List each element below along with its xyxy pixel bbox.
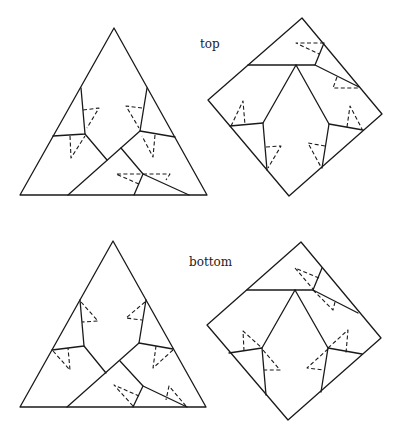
triangle-outline (20, 28, 207, 195)
cut-right-arm (328, 348, 362, 354)
cut-top-right (313, 268, 358, 313)
label-top: top (200, 37, 220, 51)
cut-left-spine (263, 65, 296, 170)
cut-left-diag (85, 134, 107, 160)
hinge-marker (143, 174, 170, 180)
cut-main-diag (67, 343, 139, 407)
triangle-outline (20, 241, 206, 407)
cut-right-upper (139, 300, 173, 349)
hinge-marker (126, 302, 145, 320)
cut-left-diag (84, 346, 106, 373)
cut-right-arm (329, 124, 363, 130)
cut-right-spine (296, 65, 329, 168)
hinge-marker (70, 136, 85, 158)
label-bottom: bottom (189, 255, 233, 269)
cut-main-diag (68, 131, 140, 195)
cut-right-upper (140, 88, 175, 137)
hinge-marker (53, 348, 70, 370)
hinge-marker (231, 101, 245, 126)
square-outline (207, 242, 381, 420)
cut-bottom-short (134, 174, 143, 195)
top-triangle (20, 28, 207, 195)
cut-bottom-right (121, 148, 189, 195)
bottom-triangle (20, 241, 206, 407)
cut-bottom-short (133, 386, 143, 407)
hinge-marker (142, 135, 155, 157)
hinge-marker (81, 302, 98, 322)
hinge-marker (153, 346, 173, 368)
square-outline (208, 18, 382, 196)
cut-right-spine (295, 290, 328, 392)
top-square (208, 18, 382, 196)
cut-top-right (315, 43, 359, 87)
cut-left-spine (262, 290, 295, 395)
hinge-marker (166, 386, 186, 406)
hinge-marker (347, 106, 362, 129)
cut-left-arm (230, 123, 263, 126)
dissection-figure: top bottom (0, 0, 408, 442)
bottom-square (207, 242, 381, 420)
hinge-marker (266, 146, 281, 168)
hinge-marker (263, 350, 280, 370)
hinge-marker (83, 108, 99, 128)
cut-left-arm (229, 348, 262, 353)
hinge-marker (126, 106, 142, 128)
